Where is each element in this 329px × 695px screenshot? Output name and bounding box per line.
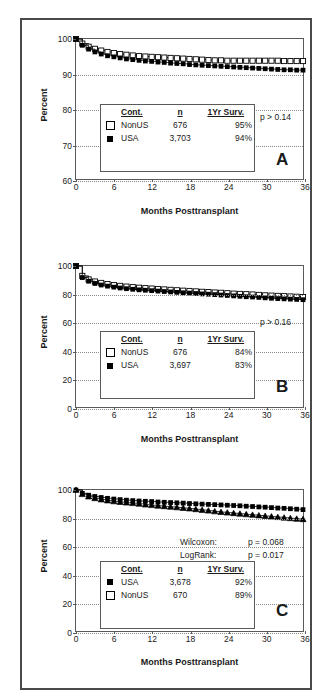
open-square-data-point — [181, 56, 186, 61]
filled-square-data-point — [282, 296, 287, 301]
y-tick-mark — [73, 490, 76, 491]
legend-surv-value: 84% — [198, 345, 254, 358]
filled-square-data-point — [93, 50, 98, 55]
panel-c-logrank-label: LogRank: — [180, 550, 216, 560]
legend-header-row: Cont. n 1Yr Surv. — [101, 105, 254, 118]
filled-square-data-point — [86, 279, 91, 284]
filled-square-data-point — [162, 289, 167, 294]
legend-cont-value: NonUS — [119, 118, 163, 131]
filled-square-data-point — [282, 67, 287, 72]
gridline — [76, 295, 303, 296]
filled-square-data-point — [219, 503, 224, 508]
filled-square-data-point — [256, 66, 261, 71]
filled-square-marker-icon — [101, 358, 119, 371]
panel-c-letter: C — [276, 601, 288, 621]
open-square-data-point — [244, 58, 249, 63]
legend-cont-value: NonUS — [119, 588, 163, 601]
legend-surv-value: 92% — [198, 575, 254, 588]
filled-square-marker-icon — [101, 575, 119, 588]
x-tick-label: 0 — [74, 411, 79, 420]
legend-header-row: Cont. n 1Yr Surv. — [101, 562, 254, 575]
legend-cont-value: USA — [119, 358, 163, 371]
open-square-data-point — [237, 58, 242, 63]
open-square-data-point — [124, 52, 129, 57]
open-square-data-point — [130, 53, 135, 58]
x-tick-label: 24 — [224, 183, 233, 192]
open-square-marker-icon — [101, 588, 119, 601]
x-tick-label: 36 — [300, 183, 309, 192]
y-tick-mark — [73, 604, 76, 605]
legend-header-n: n — [163, 562, 198, 575]
filled-square-data-point — [256, 295, 261, 300]
filled-square-data-point — [105, 53, 110, 58]
legend-n-value: 676 — [163, 345, 198, 358]
legend-row: NonUS 676 84% — [101, 345, 254, 358]
open-square-data-point — [206, 57, 211, 62]
filled-square-data-point — [200, 502, 205, 507]
open-square-data-point — [231, 58, 236, 63]
y-tick-label: 80 — [48, 514, 72, 523]
panel-a: Percent 60708090100061218243036 Months P… — [22, 20, 314, 245]
legend-cont-value: NonUS — [119, 345, 163, 358]
filled-square-data-point — [269, 296, 274, 301]
y-tick-mark — [73, 323, 76, 324]
filled-square-data-point — [99, 283, 104, 288]
filled-square-data-point — [231, 503, 236, 508]
legend-surv-value: 89% — [198, 588, 254, 601]
y-tick-label: 90 — [48, 70, 72, 79]
x-tick-label: 12 — [148, 183, 157, 192]
legend-n-value: 670 — [163, 588, 198, 601]
filled-square-data-point — [105, 284, 110, 289]
legend-row: NonUS 676 95% — [101, 118, 254, 131]
figure-frame: Percent 60708090100061218243036 Months P… — [20, 18, 312, 690]
open-square-data-point — [143, 54, 148, 59]
open-square-data-point — [200, 57, 205, 62]
filled-square-data-point — [225, 503, 230, 508]
panel-b-letter: B — [276, 377, 288, 397]
panel-a-letter: A — [276, 150, 288, 170]
x-tick-label: 24 — [224, 635, 233, 644]
open-square-marker-icon — [101, 118, 119, 131]
legend-header-n: n — [163, 105, 198, 118]
filled-square-data-point — [206, 63, 211, 68]
filled-square-data-point — [143, 59, 148, 64]
legend-header-row: Cont. n 1Yr Surv. — [101, 332, 254, 345]
panel-c-legend-table: Cont. n 1Yr Surv. USA 3,678 92% NonUS 67… — [101, 562, 254, 601]
filled-square-data-point — [80, 43, 85, 48]
y-tick-label: 60 — [48, 319, 72, 328]
panel-b-pvalue: p > 0.16 — [260, 317, 291, 327]
x-tick-label: 6 — [112, 635, 117, 644]
open-square-data-point — [288, 58, 293, 63]
x-tick-label: 6 — [112, 183, 117, 192]
panel-a-legend-table: Cont. n 1Yr Surv. NonUS 676 95% USA 3,70… — [101, 105, 254, 144]
filled-square-marker-icon — [101, 131, 119, 144]
panel-a-pvalue: p > 0.14 — [260, 112, 291, 122]
filled-square-data-point — [80, 275, 85, 280]
open-square-data-point — [136, 54, 141, 59]
filled-square-data-point — [244, 65, 249, 70]
legend-header-cont: Cont. — [119, 105, 163, 118]
filled-square-data-point — [124, 57, 129, 62]
y-tick-mark — [73, 547, 76, 548]
x-tick-label: 6 — [112, 411, 117, 420]
y-tick-label: 100 — [48, 486, 72, 495]
filled-square-data-point — [263, 505, 268, 510]
x-tick-label: 0 — [74, 183, 79, 192]
open-square-data-point — [212, 58, 217, 63]
filled-square-data-point — [275, 67, 280, 72]
y-tick-label: 100 — [48, 262, 72, 271]
x-tick-label: 0 — [74, 635, 79, 644]
panel-b: Percent 020406080100061218243036 Months … — [22, 245, 314, 471]
y-tick-label: 20 — [48, 600, 72, 609]
x-tick-label: 18 — [186, 411, 195, 420]
filled-square-data-point — [149, 59, 154, 64]
y-tick-label: 40 — [48, 572, 72, 581]
open-square-data-point — [282, 58, 287, 63]
panel-b-x-axis-label: Months Posttransplant — [75, 434, 304, 444]
legend-row: USA 3,697 83% — [101, 358, 254, 371]
y-tick-label: 80 — [48, 106, 72, 115]
legend-row: USA 3,678 92% — [101, 575, 254, 588]
filled-square-data-point — [111, 285, 116, 290]
y-tick-mark — [73, 39, 76, 40]
gridline — [76, 75, 303, 76]
